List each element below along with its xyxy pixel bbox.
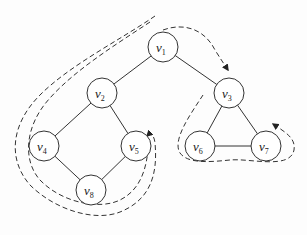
node-v1: v1	[148, 32, 178, 62]
graph-diagram: v1 v2 v3 v4 v5 v6 v7 v8	[0, 0, 307, 235]
node-v7: v7	[251, 131, 281, 161]
nodes: v1 v2 v3 v4 v5 v6 v7 v8	[29, 32, 281, 205]
node-v2: v2	[87, 78, 117, 108]
edges	[44, 47, 266, 190]
graph-svg: v1 v2 v3 v4 v5 v6 v7 v8	[0, 0, 307, 235]
node-v5: v5	[121, 131, 151, 161]
node-v8: v8	[76, 175, 106, 205]
node-v3: v3	[214, 78, 244, 108]
node-v4: v4	[29, 131, 59, 161]
node-v6: v6	[185, 131, 215, 161]
